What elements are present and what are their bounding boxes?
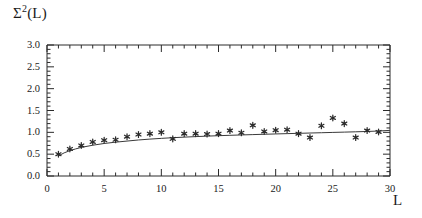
x-tick-label: 15 <box>204 184 234 195</box>
data-point-marker <box>102 137 107 143</box>
data-point-marker <box>330 115 335 121</box>
data-point-marker <box>56 151 61 157</box>
x-tick-label: 25 <box>318 184 348 195</box>
data-points <box>56 115 381 157</box>
data-point-marker <box>159 129 164 135</box>
data-point-marker <box>170 136 175 142</box>
data-point-marker <box>193 131 198 137</box>
data-point-marker <box>90 139 95 145</box>
y-tick-label: 0.5 <box>4 149 40 160</box>
fit-curve <box>58 130 390 156</box>
data-point-marker <box>285 127 290 133</box>
data-point-marker <box>250 122 255 128</box>
y-tick-label: 1.0 <box>4 127 40 138</box>
sigma-squared-chart: Σ2(L) L 0.00.51.01.52.02.53.0 0510152025… <box>0 0 422 218</box>
data-point-marker <box>342 121 347 127</box>
model-curve <box>58 130 390 156</box>
data-point-marker <box>365 128 370 134</box>
data-point-marker <box>353 135 358 141</box>
y-tick-label: 0.0 <box>4 171 40 182</box>
y-tick-label: 2.5 <box>4 62 40 73</box>
y-tick-label: 1.5 <box>4 106 40 117</box>
x-tick-label: 30 <box>375 184 405 195</box>
axes <box>47 45 390 176</box>
data-point-marker <box>227 128 232 134</box>
x-tick-label: 0 <box>32 184 62 195</box>
data-point-marker <box>319 123 324 129</box>
x-tick-label: 5 <box>89 184 119 195</box>
y-tick-label: 3.0 <box>4 40 40 51</box>
data-point-marker <box>182 131 187 137</box>
data-point-marker <box>147 131 152 137</box>
data-point-marker <box>307 135 312 141</box>
data-point-marker <box>273 127 278 133</box>
data-point-marker <box>125 134 130 140</box>
x-tick-label: 10 <box>146 184 176 195</box>
data-point-marker <box>376 129 381 135</box>
y-tick-label: 2.0 <box>4 84 40 95</box>
data-point-marker <box>136 132 141 138</box>
x-tick-label: 20 <box>261 184 291 195</box>
data-point-marker <box>262 129 267 135</box>
